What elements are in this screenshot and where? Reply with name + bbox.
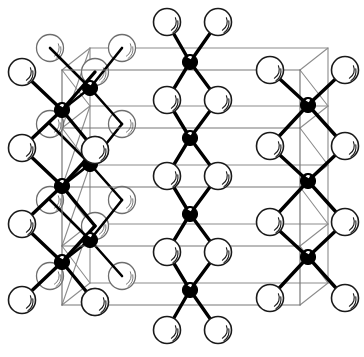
anion-front-l2 bbox=[9, 135, 36, 162]
cation-back-3 bbox=[82, 232, 97, 247]
anion-front-l4 bbox=[9, 287, 36, 314]
anion-front-c6 bbox=[205, 163, 232, 190]
anion-front-r8 bbox=[332, 285, 359, 312]
cation-front-r2 bbox=[300, 173, 315, 188]
cell-diag-r2a bbox=[300, 128, 328, 165]
anion-front-c9 bbox=[154, 317, 181, 344]
anion-front-r6 bbox=[332, 209, 359, 236]
anion-front-l1 bbox=[9, 59, 36, 86]
cell-diag-r3a bbox=[300, 187, 328, 224]
anion-front-r1 bbox=[257, 57, 284, 84]
anion-front-c2 bbox=[205, 9, 232, 36]
anion-front-c4 bbox=[205, 87, 232, 114]
cell-depth-edge-br bbox=[300, 283, 328, 305]
anion-front-c7 bbox=[154, 239, 181, 266]
cation-front-l2 bbox=[54, 178, 69, 193]
anion-front-c1 bbox=[154, 9, 181, 36]
unit-cell-front-face bbox=[62, 70, 300, 305]
anion-front-r3 bbox=[257, 133, 284, 160]
anion-front-r7 bbox=[257, 285, 284, 312]
anion-front-l5 bbox=[82, 137, 109, 164]
anion-front-r2 bbox=[332, 57, 359, 84]
cation-front-r3 bbox=[300, 249, 315, 264]
cation-front-c3 bbox=[182, 206, 197, 221]
anion-front-r5 bbox=[257, 209, 284, 236]
anion-front-c8 bbox=[205, 239, 232, 266]
cation-front-c1 bbox=[182, 54, 197, 69]
cation-front-r1 bbox=[300, 97, 315, 112]
anion-front-l6 bbox=[82, 289, 109, 316]
cation-front-c2 bbox=[182, 130, 197, 145]
cell-depth-edge-tr bbox=[300, 48, 328, 70]
cation-front-l3 bbox=[54, 254, 69, 269]
anion-front-c5 bbox=[154, 163, 181, 190]
cation-back-1 bbox=[82, 80, 97, 95]
anion-front-c10 bbox=[205, 317, 232, 344]
crystal-structure-figure: Crystal structure unit cell diagram bbox=[0, 0, 364, 357]
cation-front-l1 bbox=[54, 102, 69, 117]
anion-front-c3 bbox=[154, 87, 181, 114]
anion-front-r4 bbox=[332, 133, 359, 160]
anion-front-l3 bbox=[9, 211, 36, 238]
cation-front-c4 bbox=[182, 282, 197, 297]
